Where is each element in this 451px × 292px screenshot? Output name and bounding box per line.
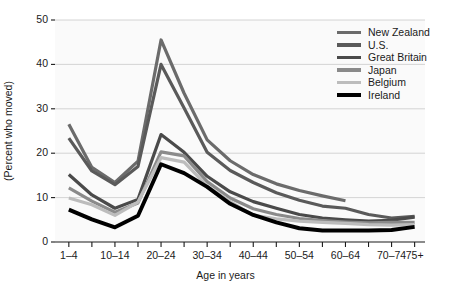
legend-item: U.S.	[337, 39, 430, 52]
y-tick-label: 20	[14, 146, 48, 158]
x-tick-label: 50–54	[274, 249, 324, 261]
chart-legend: New ZealandU.S.Great BritainJapanBelgium…	[337, 26, 430, 102]
legend-swatch	[337, 81, 361, 84]
y-tick-label: 10	[14, 191, 48, 203]
x-tick-label: 20–24	[136, 249, 186, 261]
x-tick-label: 40–44	[228, 249, 278, 261]
x-axis-label: Age in years	[0, 269, 451, 281]
y-tick-label: 40	[14, 57, 48, 69]
legend-swatch	[337, 43, 361, 46]
legend-label: Ireland	[368, 89, 400, 102]
legend-label: Belgium	[368, 76, 406, 89]
legend-swatch	[337, 68, 361, 71]
y-tick-label: 30	[14, 102, 48, 114]
legend-label: Great Britain	[368, 51, 427, 64]
legend-item: Belgium	[337, 76, 430, 89]
legend-label: U.S.	[368, 39, 388, 52]
legend-item: New Zealand	[337, 26, 430, 39]
legend-label: New Zealand	[368, 26, 430, 39]
x-tick-label: 75+	[390, 249, 440, 261]
x-tick-label: 30–34	[182, 249, 232, 261]
chart-figure: 01020304050 1–410–1420–2430–3440–4450–54…	[0, 0, 451, 292]
legend-item: Ireland	[337, 89, 430, 102]
y-tick-label: 50	[14, 13, 48, 25]
y-tick-label: 0	[14, 235, 48, 247]
y-axis-label: (Percent who moved)	[2, 81, 14, 181]
legend-item: Great Britain	[337, 51, 430, 64]
x-tick-label: 60–64	[320, 249, 370, 261]
legend-item: Japan	[337, 64, 430, 77]
y-tick-marks	[51, 20, 55, 242]
x-tick-marks	[69, 242, 415, 247]
x-tick-label: 1–4	[44, 249, 94, 261]
legend-swatch	[337, 31, 361, 34]
legend-label: Japan	[368, 64, 397, 77]
x-tick-label: 10–14	[90, 249, 140, 261]
legend-swatch	[337, 56, 361, 59]
legend-swatch	[337, 93, 361, 97]
